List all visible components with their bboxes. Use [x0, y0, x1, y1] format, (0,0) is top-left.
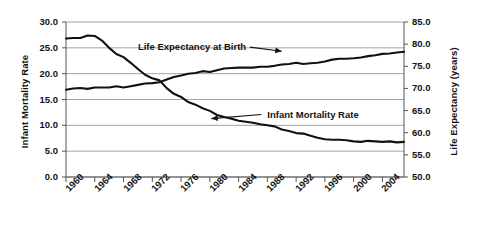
y-axis-right-tick: 50.0	[412, 171, 448, 182]
series-label-life-expectancy-at-birth: Life Expectancy at Birth	[138, 41, 246, 52]
y-axis-left-tick: 20.0	[24, 68, 58, 79]
y-axis-right-tick: 70.0	[412, 82, 448, 93]
series-label-infant-mortality-rate: Infant Mortality Rate	[267, 109, 358, 120]
y-axis-right-title: Life Expectancy (years)	[448, 27, 459, 177]
y-axis-left-tick: 15.0	[24, 94, 58, 105]
y-axis-left-tick: 5.0	[24, 145, 58, 156]
y-axis-right-tick: 75.0	[412, 60, 448, 71]
y-axis-right-tick: 60.0	[412, 127, 448, 138]
y-axis-left-tick: 10.0	[24, 119, 58, 130]
y-axis-right-tick: 55.0	[412, 149, 448, 160]
y-axis-right-tick: 85.0	[412, 16, 448, 27]
y-axis-left-tick: 25.0	[24, 42, 58, 53]
y-axis-left-tick: 30.0	[24, 16, 58, 27]
y-axis-right-tick: 65.0	[412, 105, 448, 116]
y-axis-left-tick: 0.0	[24, 171, 58, 182]
chart-figure: Infant Mortality Rate Life Expectancy (y…	[0, 0, 477, 232]
dual-axis-line-chart	[0, 0, 477, 232]
y-axis-right-tick: 80.0	[412, 38, 448, 49]
